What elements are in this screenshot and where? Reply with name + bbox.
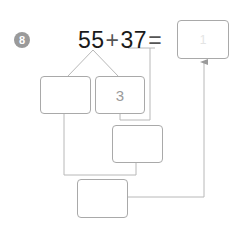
plus-sign: + [105,27,121,53]
split-box-b-value: 3 [116,87,124,104]
split-line-right [93,50,118,76]
equation: 55+37= [78,28,163,52]
equals-sign: = [147,27,163,53]
answer-box[interactable]: 1 [177,20,229,59]
split-line-left [68,50,93,76]
tens-sum-box[interactable] [77,179,128,218]
split-box-b[interactable]: 3 [95,76,145,114]
problem-number-badge: 8 [14,32,30,48]
split-box-a[interactable] [40,76,91,114]
first-addend: 55 [78,27,105,53]
partial-sum-box[interactable] [112,125,163,163]
math-worksheet-problem: 8 55+37= 1 3 [0,0,242,226]
answer-faint-mark: 1 [200,33,207,47]
second-addend: 37 [121,27,148,53]
